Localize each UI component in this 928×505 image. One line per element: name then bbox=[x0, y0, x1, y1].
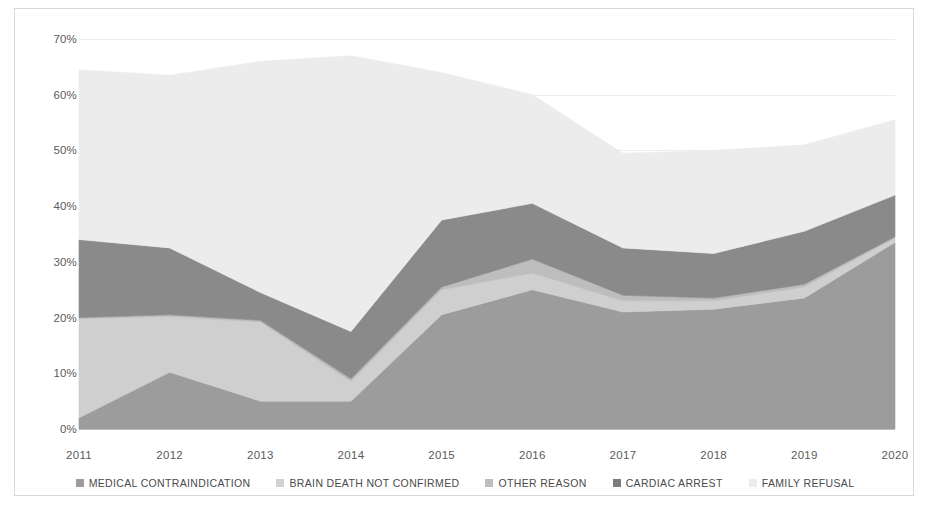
plot-area: 0%10%20%30%40%50%60%70% 2011201220132014… bbox=[15, 9, 915, 497]
x-axis-tick-label: 2018 bbox=[700, 449, 727, 461]
y-axis-tick-label: 20% bbox=[53, 312, 77, 324]
legend-item[interactable]: OTHER REASON bbox=[485, 477, 586, 489]
y-axis-tick-label: 30% bbox=[53, 256, 77, 268]
y-axis-tick-label: 10% bbox=[53, 367, 77, 379]
y-axis: 0%10%20%30%40%50%60%70% bbox=[35, 9, 77, 497]
legend-label: BRAIN DEATH NOT CONFIRMED bbox=[289, 477, 459, 489]
x-axis-tick-label: 2014 bbox=[338, 449, 365, 461]
x-axis-tick-label: 2012 bbox=[156, 449, 183, 461]
legend-label: FAMILY REFUSAL bbox=[762, 477, 855, 489]
legend-item[interactable]: CARDIAC ARREST bbox=[613, 477, 723, 489]
x-axis-tick-label: 2015 bbox=[428, 449, 455, 461]
legend-swatch-icon bbox=[485, 479, 493, 487]
x-axis-tick-label: 2016 bbox=[519, 449, 546, 461]
stacked-area-series bbox=[15, 9, 915, 497]
legend-label: MEDICAL CONTRAINDICATION bbox=[89, 477, 251, 489]
legend-swatch-icon bbox=[276, 479, 284, 487]
legend-swatch-icon bbox=[749, 479, 757, 487]
legend-item[interactable]: MEDICAL CONTRAINDICATION bbox=[76, 477, 251, 489]
legend-item[interactable]: BRAIN DEATH NOT CONFIRMED bbox=[276, 477, 459, 489]
x-axis-tick-label: 2017 bbox=[610, 449, 637, 461]
chart-container: 0%10%20%30%40%50%60%70% 2011201220132014… bbox=[14, 8, 914, 496]
x-axis-tick-label: 2020 bbox=[882, 449, 909, 461]
y-axis-tick-label: 60% bbox=[53, 89, 77, 101]
y-axis-tick-label: 70% bbox=[53, 33, 77, 45]
x-axis-tick-label: 2019 bbox=[791, 449, 818, 461]
legend-item[interactable]: FAMILY REFUSAL bbox=[749, 477, 855, 489]
chart-legend: MEDICAL CONTRAINDICATIONBRAIN DEATH NOT … bbox=[15, 471, 915, 495]
legend-swatch-icon bbox=[76, 479, 84, 487]
y-axis-tick-label: 50% bbox=[53, 144, 77, 156]
x-axis-tick-label: 2011 bbox=[66, 449, 92, 461]
x-axis: 2011201220132014201520162017201820192020 bbox=[77, 441, 897, 471]
legend-label: CARDIAC ARREST bbox=[626, 477, 723, 489]
y-axis-tick-label: 40% bbox=[53, 200, 77, 212]
y-axis-tick-label: 0% bbox=[60, 423, 77, 435]
legend-swatch-icon bbox=[613, 479, 621, 487]
area-chart-svg bbox=[15, 9, 915, 497]
x-axis-tick-label: 2013 bbox=[247, 449, 274, 461]
legend-label: OTHER REASON bbox=[498, 477, 586, 489]
